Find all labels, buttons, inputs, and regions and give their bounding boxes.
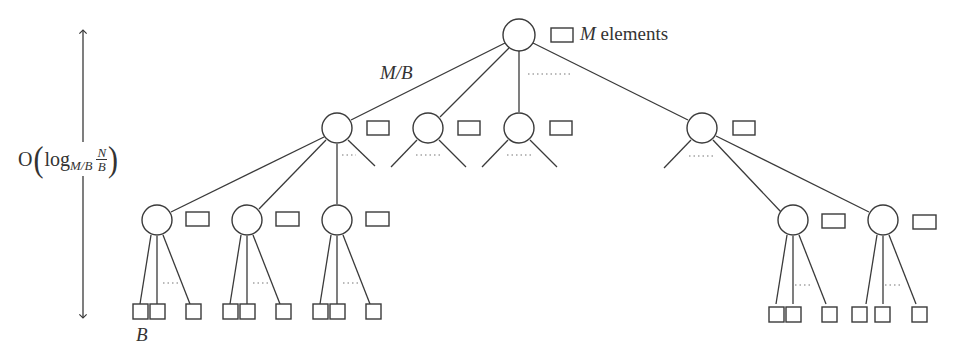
level1-edges	[171, 136, 869, 212]
node-l2-b	[232, 205, 262, 235]
node-l1-b	[413, 113, 443, 143]
buffer-l2-d	[822, 214, 845, 228]
buffer-l2-b	[276, 212, 299, 226]
leaf-blocks	[133, 304, 927, 322]
buffer-l1-c	[550, 121, 572, 135]
var-m: M	[580, 23, 596, 44]
node-l1-c	[504, 113, 534, 143]
fraction-denominator: B	[98, 160, 106, 173]
tree-diagram	[0, 0, 958, 355]
fanout-label: M/B	[380, 62, 413, 84]
leaf-size-label: B	[136, 324, 148, 346]
buffer-l2-e	[913, 215, 936, 229]
tree-nodes	[142, 19, 936, 235]
root-node	[503, 19, 535, 51]
close-paren: )	[108, 141, 118, 177]
elements-text: elements	[596, 23, 668, 44]
log-text: log	[44, 148, 70, 171]
root-buffer	[551, 28, 573, 42]
buffer-l1-a	[367, 121, 389, 135]
node-l2-c	[322, 205, 352, 235]
log-base: M/B	[70, 158, 92, 174]
node-l2-a	[142, 205, 172, 235]
height-label: O ( log M/B N B )	[18, 142, 118, 176]
fraction-numerator: N	[96, 146, 107, 160]
node-l1-a	[322, 113, 352, 143]
buffer-l2-c	[366, 212, 389, 226]
root-buffer-label: M elements	[580, 23, 668, 45]
leaf-edges	[140, 235, 916, 304]
open-paren: (	[33, 141, 43, 177]
buffer-l1-d	[733, 121, 755, 135]
node-l2-e	[868, 205, 898, 235]
fraction: N B	[96, 146, 107, 173]
node-l1-d	[687, 113, 717, 143]
node-l2-d	[778, 205, 808, 235]
big-o: O	[18, 148, 32, 171]
buffer-l2-a	[186, 212, 209, 226]
buffer-l1-b	[458, 121, 480, 135]
